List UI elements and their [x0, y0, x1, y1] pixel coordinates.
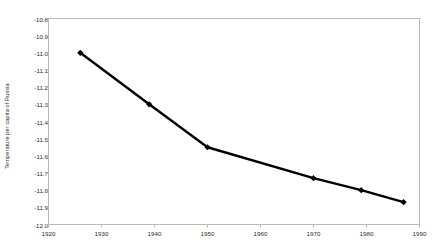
plot-area — [0, 0, 432, 251]
plot-frame — [49, 19, 420, 225]
line-chart: Temperature per capita of Russia -10.8-1… — [0, 0, 432, 251]
